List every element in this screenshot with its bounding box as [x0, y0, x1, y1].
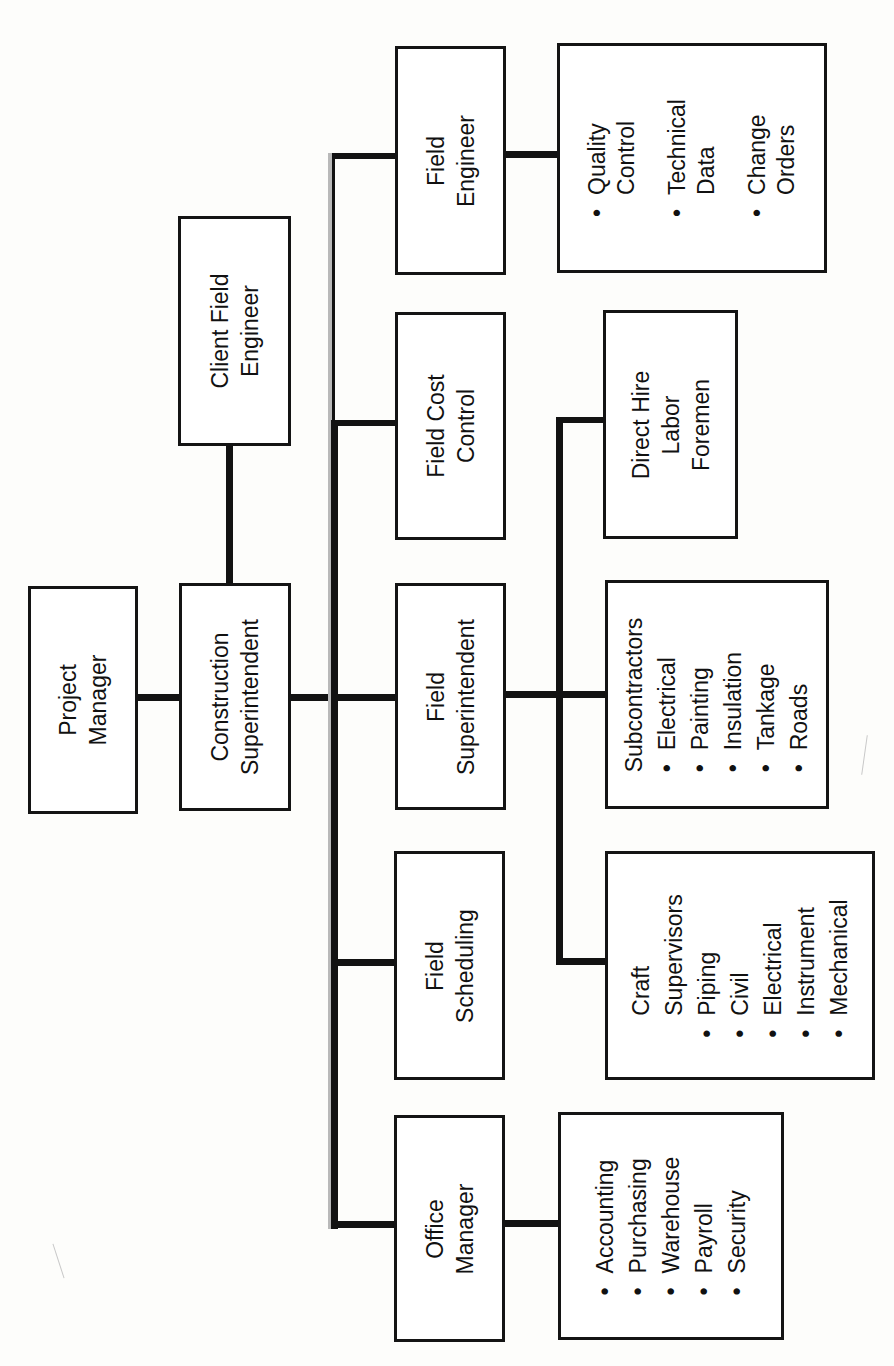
node-label-line: Control — [451, 374, 481, 478]
node-direct-hire-labor-foremen: Direct Hire Labor Foremen — [603, 310, 738, 539]
list-item-label: Tankage — [753, 663, 779, 750]
bullet-icon: • — [691, 1015, 724, 1037]
list-item: •Painting — [684, 617, 717, 772]
secondary-spine — [556, 417, 563, 965]
bullet-icon: • — [663, 195, 692, 217]
connector-om-duties — [503, 1220, 560, 1227]
connector-cs-spine — [289, 694, 397, 701]
bullet-icon: • — [622, 1273, 655, 1295]
node-field-engineer-duties: •Quality Control •Technical Data •Change… — [557, 43, 827, 273]
list-item-label: Painting — [687, 667, 713, 750]
list-item-label: Mechanical — [826, 899, 852, 1015]
bullet-icon: • — [790, 1015, 823, 1037]
bullet-icon: • — [724, 1015, 757, 1037]
bullet-icon: • — [583, 195, 612, 217]
node-title: Supervisors — [658, 894, 691, 1037]
bullet-icon: • — [783, 750, 816, 772]
node-project-manager: Project Manager — [28, 586, 138, 814]
node-field-engineer: Field Engineer — [395, 46, 506, 275]
list-item-label: Security — [724, 1190, 750, 1273]
main-spine — [331, 420, 338, 1229]
list-item: •Electrical — [651, 617, 684, 772]
node-field-scheduling: Field Scheduling — [394, 851, 505, 1080]
node-label-line: Office — [420, 1183, 450, 1274]
list-item-label: Data — [692, 99, 721, 217]
bullet-icon: • — [684, 750, 717, 772]
node-office-manager: Office Manager — [394, 1115, 505, 1342]
node-office-duties: •Accounting •Purchasing •Warehouse •Payr… — [558, 1112, 784, 1340]
node-field-superintendent: Field Superintendent — [395, 583, 506, 810]
list-item-label: Payroll — [691, 1203, 717, 1273]
node-label-line: Field — [421, 618, 451, 774]
node-label-line: Field — [420, 909, 450, 1023]
node-label-line: Field — [421, 114, 451, 206]
list-item-label: Control — [612, 99, 641, 217]
branch-field-engineer — [332, 153, 397, 159]
list-item-label: Quality — [584, 123, 610, 195]
node-label-line: Foremen — [686, 370, 716, 479]
list-item: •Payroll — [688, 1157, 721, 1296]
node-label-line: Client Field — [205, 273, 235, 388]
list-item-label: Insulation — [720, 651, 746, 749]
node-label-line: Direct Hire — [626, 370, 656, 479]
list-item: •Security — [721, 1157, 754, 1296]
branch-field-cost-control — [333, 420, 397, 426]
list-item: •Tankage — [750, 617, 783, 772]
list-item-label: Accounting — [592, 1160, 618, 1274]
connector-pm-cs — [137, 694, 182, 701]
connector-cfe-cs — [226, 444, 233, 586]
node-label-line: Engineer — [235, 273, 265, 388]
main-spine-upper — [332, 155, 335, 425]
bullet-icon: • — [743, 195, 772, 217]
list-item-label: Electrical — [760, 922, 786, 1015]
branch-field-scheduling — [333, 959, 397, 966]
list-item: •Instrument — [790, 894, 823, 1037]
node-field-cost-control: Field Cost Control — [395, 312, 506, 540]
bullet-icon: • — [757, 1015, 790, 1037]
list-item: •Warehouse — [655, 1157, 688, 1296]
list-item-label: Roads — [786, 683, 812, 749]
node-label-line: Construction — [205, 619, 235, 775]
node-label-line: Field Cost — [421, 374, 451, 478]
list-item-label: Orders — [772, 99, 801, 217]
list-item-label: Civil — [727, 972, 753, 1015]
list-item: •Purchasing — [622, 1157, 655, 1296]
bullet-icon: • — [750, 750, 783, 772]
scan-artifact — [861, 735, 868, 775]
bullet-icon: • — [655, 1273, 688, 1295]
list-item: •Change Orders — [743, 99, 801, 217]
node-label-line: Manager — [83, 655, 113, 746]
node-craft-supervisors: Craft Supervisors •Piping •Civil •Electr… — [605, 851, 875, 1080]
node-label-line: Scheduling — [450, 909, 480, 1023]
list-item: •Insulation — [717, 617, 750, 772]
scan-artifact — [52, 1244, 64, 1279]
connector-fe-duties — [504, 151, 559, 158]
node-label-line: Labor — [656, 370, 686, 479]
node-construction-superintendent: Construction Superintendent — [179, 583, 291, 811]
list-item-label: Change — [744, 114, 770, 195]
node-label-line: Superintendent — [451, 618, 481, 774]
bullet-icon: • — [721, 1273, 754, 1295]
branch-craft-supervisors — [556, 958, 607, 965]
node-label-line: Project — [53, 655, 83, 746]
bullet-icon: • — [717, 750, 750, 772]
list-item: •Accounting — [589, 1157, 622, 1296]
list-item: •Quality Control — [583, 99, 641, 217]
list-item-label: Warehouse — [658, 1157, 684, 1274]
list-item-label: Technical — [664, 99, 690, 195]
bullet-icon: • — [651, 750, 684, 772]
list-item: •Piping — [691, 894, 724, 1037]
node-label-line: Manager — [450, 1183, 480, 1274]
list-item: •Technical Data — [663, 99, 721, 217]
bullet-icon: • — [823, 1015, 856, 1037]
list-item-label: Piping — [694, 951, 720, 1015]
node-client-field-engineer: Client Field Engineer — [178, 216, 291, 446]
branch-direct-hire — [556, 417, 605, 423]
list-item-label: Instrument — [793, 907, 819, 1016]
node-title: Craft — [625, 894, 658, 1037]
list-item: •Electrical — [757, 894, 790, 1037]
list-item: •Roads — [783, 617, 816, 772]
node-label-line: Superintendent — [235, 619, 265, 775]
list-item: •Mechanical — [823, 894, 856, 1037]
bullet-icon: • — [688, 1273, 721, 1295]
